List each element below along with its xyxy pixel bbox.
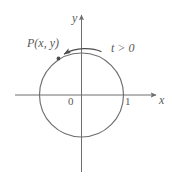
- point-p-marker: [57, 57, 61, 61]
- point-p-label: P(x, y): [27, 37, 59, 49]
- origin-label: 0: [68, 96, 74, 107]
- unit-circle-figure: P(x, y) t > 0 y x 1 0: [0, 0, 172, 179]
- x-axis-label: x: [159, 94, 164, 106]
- parameter-t-label: t > 0: [111, 42, 134, 54]
- figure-canvas: [0, 0, 172, 179]
- unit-tick-label: 1: [125, 96, 131, 107]
- y-axis-label: y: [72, 12, 77, 24]
